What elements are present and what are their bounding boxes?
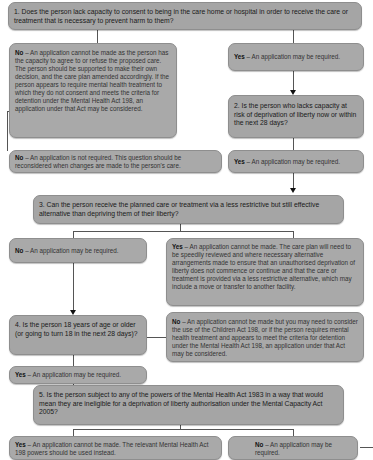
q1-yes-text: – An application may be required. bbox=[245, 53, 340, 60]
connector-line bbox=[7, 111, 8, 151]
q1-no-text: – An application cannot be made as the p… bbox=[15, 49, 169, 112]
q2-no-text: – An application is not required. This q… bbox=[15, 154, 181, 169]
q3-yes-answer: Yes – An application cannot be made. The… bbox=[166, 238, 364, 306]
question-5-text: 5. Is the person subject to any of the p… bbox=[39, 391, 323, 415]
q4-yes-text: – An application may be required. bbox=[26, 371, 121, 378]
q2-yes-text: – An application may be required. bbox=[245, 158, 340, 165]
connector-line bbox=[293, 70, 294, 92]
q5-yes-label: Yes bbox=[15, 441, 26, 448]
q3-yes-label: Yes bbox=[172, 243, 183, 250]
connector-line bbox=[360, 447, 373, 448]
connector-line bbox=[73, 231, 294, 232]
q1-no-answer: No – An application cannot be made as th… bbox=[9, 43, 177, 138]
q3-yes-text: – An application cannot be made. The car… bbox=[172, 243, 355, 290]
q3-no-text: – An application may be required. bbox=[23, 247, 118, 254]
q5-no-answer: No – An application may be required. bbox=[228, 436, 358, 460]
q5-yes-text: – An application cannot be made. The rel… bbox=[15, 441, 208, 456]
question-1-text: 1. Does the person lack capacity to cons… bbox=[14, 8, 348, 24]
q5-yes-answer: Yes – An application cannot be made. The… bbox=[9, 436, 222, 460]
q3-no-answer: No – An application may be required. bbox=[9, 238, 147, 263]
q5-no-text: – An application may be required. bbox=[255, 441, 332, 456]
question-4: 4. Is the person 18 years of age or olde… bbox=[9, 315, 147, 355]
question-4-text: 4. Is the person 18 years of age or olde… bbox=[15, 321, 137, 337]
question-5: 5. Is the person subject to any of the p… bbox=[33, 385, 344, 425]
connector-line bbox=[73, 429, 294, 430]
question-2-text: 2. Is the person who lacks capacity at r… bbox=[234, 102, 356, 126]
q2-yes-answer: Yes – An application may be required. bbox=[228, 150, 364, 173]
q1-yes-label: Yes bbox=[234, 53, 245, 60]
connector-line bbox=[73, 262, 74, 312]
question-3-text: 3. Can the person receive the planned ca… bbox=[39, 201, 319, 217]
q2-no-answer: No – An application is not required. Thi… bbox=[9, 150, 222, 173]
arrow-down-icon bbox=[290, 188, 296, 193]
connector-line bbox=[293, 137, 294, 151]
q4-no-answer: No – An application cannot be made but y… bbox=[166, 312, 364, 362]
q2-yes-label: Yes bbox=[234, 158, 245, 165]
question-2: 2. Is the person who lacks capacity at r… bbox=[228, 95, 364, 138]
q4-yes-label: Yes bbox=[15, 371, 26, 378]
q1-yes-answer: Yes – An application may be required. bbox=[228, 43, 364, 71]
question-1: 1. Does the person lack capacity to cons… bbox=[8, 2, 362, 30]
question-3: 3. Can the person receive the planned ca… bbox=[33, 195, 344, 224]
q4-no-text: – An application cannot be made but you … bbox=[172, 318, 358, 357]
q4-yes-answer: Yes – An application may be required. bbox=[9, 366, 147, 384]
connector-line bbox=[97, 29, 98, 44]
connector-line bbox=[293, 29, 294, 43]
